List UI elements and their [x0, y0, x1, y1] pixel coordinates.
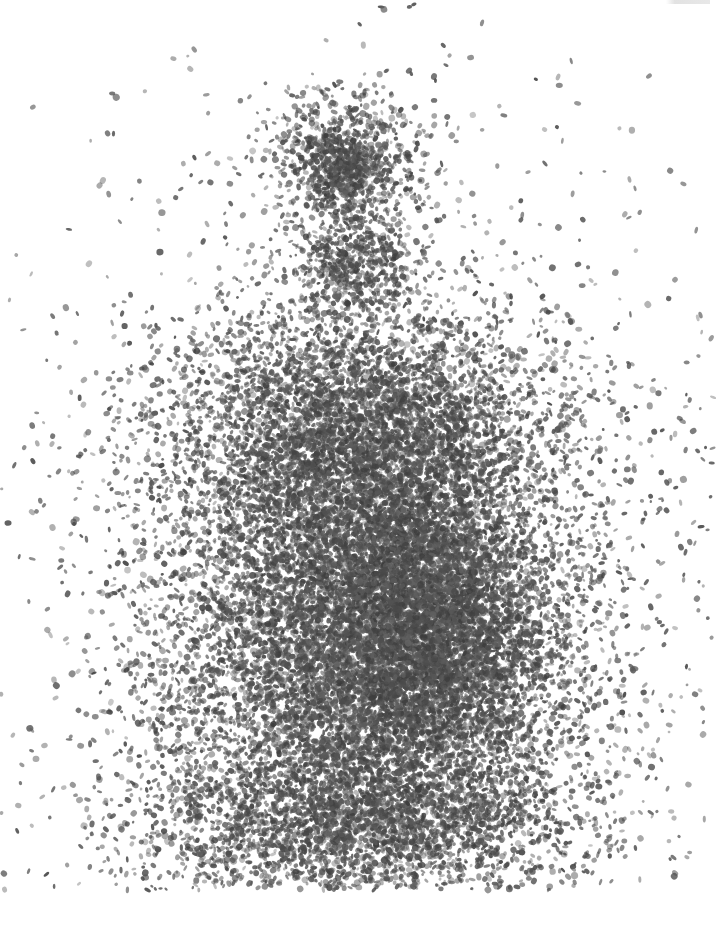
stipple-canvas — [0, 0, 716, 928]
corner-text-fragment — [666, 0, 710, 4]
